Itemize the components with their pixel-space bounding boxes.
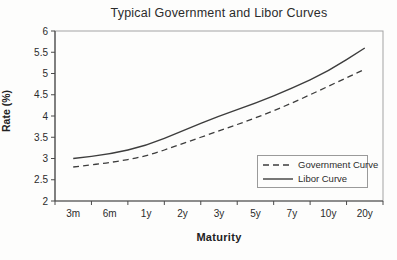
- legend-item-government: Government Curve: [262, 158, 363, 171]
- y-tick-label: 3: [42, 153, 48, 164]
- plot-area: 22.533.544.555.563m6m1y2y3y5y7y10y20y: [0, 0, 397, 260]
- x-tick-label: 3m: [66, 208, 80, 219]
- x-tick-label: 6m: [103, 208, 117, 219]
- x-tick-label: 2y: [177, 208, 188, 219]
- x-tick-label: 7y: [287, 208, 298, 219]
- legend-label-libor: Libor Curve: [298, 173, 347, 184]
- y-tick-label: 5.5: [34, 47, 48, 58]
- y-tick-label: 4.5: [34, 89, 48, 100]
- legend: Government Curve Libor Curve: [257, 155, 368, 188]
- y-tick-label: 4: [42, 111, 48, 122]
- dashed-line-sample: [262, 162, 294, 168]
- chart-figure: Typical Government and Libor Curves 22.5…: [0, 0, 397, 260]
- x-tick-label: 1y: [141, 208, 152, 219]
- x-axis-label: Maturity: [55, 231, 383, 243]
- y-tick-label: 2.5: [34, 174, 48, 185]
- y-tick-label: 6: [42, 26, 48, 37]
- x-tick-label: 3y: [214, 208, 225, 219]
- y-tick-label: 5: [42, 68, 48, 79]
- x-tick-label: 10y: [320, 208, 336, 219]
- legend-label-government: Government Curve: [298, 159, 378, 170]
- y-tick-label: 3.5: [34, 132, 48, 143]
- y-tick-label: 2: [42, 196, 48, 207]
- x-tick-label: 5y: [250, 208, 261, 219]
- x-tick-label: 20y: [357, 208, 373, 219]
- libor-curve: [73, 48, 365, 159]
- y-axis-label: Rate (%): [0, 71, 12, 151]
- solid-line-sample: [262, 176, 294, 182]
- legend-item-libor: Libor Curve: [262, 172, 363, 185]
